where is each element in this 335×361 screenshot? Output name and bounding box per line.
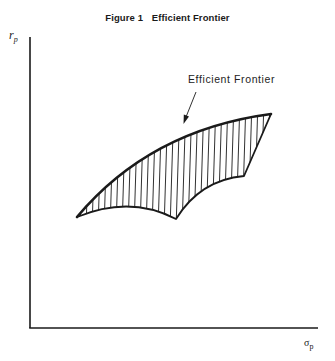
chart-plot (0, 0, 335, 361)
feasible-set-boundary (77, 114, 271, 219)
annotation-arrow-line (186, 92, 196, 117)
efficient-frontier-curve (77, 114, 271, 217)
annotation-arrow-head-icon (184, 115, 190, 125)
